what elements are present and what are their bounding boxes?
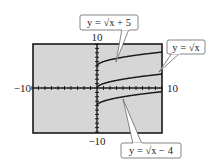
callout-label: y = √x − 4 xyxy=(129,145,174,156)
callout-sqrt-x: y = √x xyxy=(159,40,205,72)
y-max-label: 10 xyxy=(92,31,104,43)
callout-label: y = √x + 5 xyxy=(87,17,131,28)
y-min-label: −10 xyxy=(88,135,106,147)
x-min-label: −10 xyxy=(14,82,32,94)
graph-figure: −10 10 10 −10 y = √x + 5 y = √x y = √x −… xyxy=(0,0,214,167)
callout-label: y = √x xyxy=(172,42,200,53)
x-max-label: 10 xyxy=(167,82,179,94)
